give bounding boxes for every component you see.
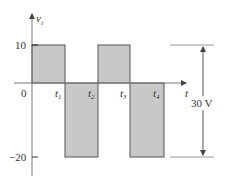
time-mark-t1: t1 (55, 87, 62, 101)
x-axis-label: t (185, 87, 189, 99)
pulse-positive-2 (98, 45, 130, 83)
y-tick-label-neg20: −20 (9, 151, 27, 163)
y-tick-label-0: 0 (21, 87, 27, 99)
time-mark-t3: t3 (120, 87, 127, 101)
pulse-positive-1 (32, 45, 65, 83)
y-axis-label: vi (36, 12, 43, 27)
y-tick-label-10: 10 (15, 39, 27, 51)
square-wave-diagram: vi t 10 0 −20 t1 t2 t3 t4 30 V (0, 0, 225, 191)
peak-to-peak-label: 30 V (191, 97, 213, 109)
